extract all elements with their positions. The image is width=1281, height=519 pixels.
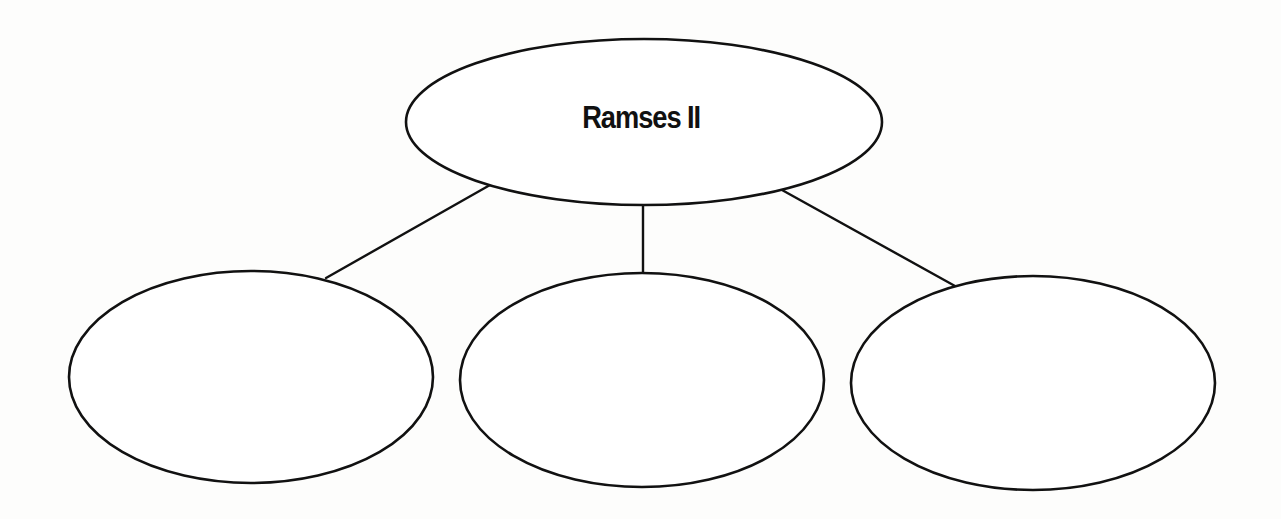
child-node-right-ellipse[interactable] [851, 276, 1215, 490]
child-node-middle-ellipse[interactable] [460, 273, 824, 487]
concept-web-diagram [0, 0, 1281, 519]
connector-center-to-right [782, 190, 955, 286]
child-node-left-ellipse[interactable] [69, 271, 433, 483]
connector-center-to-left [326, 185, 490, 278]
center-node-label: Ramses II [78, 100, 1205, 136]
